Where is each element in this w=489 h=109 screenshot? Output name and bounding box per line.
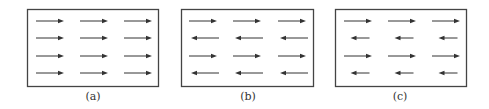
arrow-left-icon [395, 36, 414, 40]
arrow-left-icon [191, 71, 219, 75]
panel-c-caption: (c) [380, 90, 420, 103]
arrow-left-icon [280, 71, 308, 75]
arrow-right-icon [80, 71, 108, 75]
arrow-right-icon [36, 54, 64, 58]
arrow-right-icon [80, 19, 108, 23]
arrow-right-icon [36, 36, 64, 40]
arrow-left-icon [235, 71, 263, 75]
arrow-left-icon [395, 71, 414, 75]
arrow-right-icon [124, 36, 152, 40]
arrow-right-icon [36, 71, 64, 75]
arrow-right-icon [233, 54, 261, 58]
arrow-right-icon [388, 19, 416, 23]
arrow-left-icon [280, 36, 308, 40]
arrow-right-icon [189, 19, 217, 23]
arrow-right-icon [344, 19, 372, 23]
arrow-right-icon [344, 54, 372, 58]
arrow-right-icon [233, 19, 261, 23]
panel-a [28, 10, 159, 87]
arrow-right-icon [124, 19, 152, 23]
arrow-left-icon [351, 36, 370, 40]
arrow-left-icon [351, 71, 370, 75]
panel-b-caption: (b) [228, 90, 268, 103]
arrow-left-icon [191, 36, 219, 40]
arrow-right-icon [189, 54, 217, 58]
arrow-right-icon [36, 19, 64, 23]
arrow-right-icon [80, 54, 108, 58]
panel-c [336, 10, 467, 87]
arrow-right-icon [278, 54, 306, 58]
arrow-left-icon [439, 36, 458, 40]
arrow-right-icon [388, 54, 416, 58]
panel-b [182, 10, 314, 87]
arrow-right-icon [124, 71, 152, 75]
arrow-left-icon [439, 71, 458, 75]
arrow-right-icon [432, 54, 460, 58]
arrow-right-icon [278, 19, 306, 23]
arrow-right-icon [432, 19, 460, 23]
arrow-right-icon [124, 54, 152, 58]
arrow-left-icon [235, 36, 263, 40]
arrow-right-icon [80, 36, 108, 40]
panel-a-caption: (a) [73, 90, 113, 103]
